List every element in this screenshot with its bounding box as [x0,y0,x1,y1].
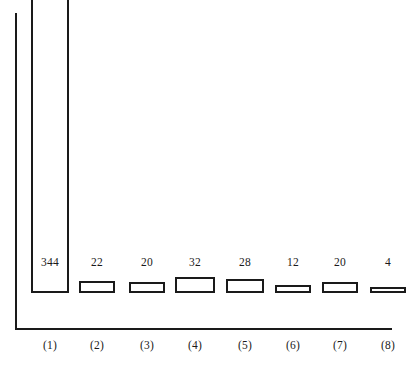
bar-3 [129,282,165,293]
category-label-2: (2) [72,336,122,354]
category-label-5: (5) [220,336,270,354]
value-label-4: 32 [170,254,220,270]
value-label-8: 4 [363,254,413,270]
bar-5 [226,279,264,293]
bar-chart-figure: 3442220322812204 (1)(2)(3)(4)(5)(6)(7)(8… [0,0,416,367]
value-label-6: 12 [268,254,318,270]
category-label-7: (7) [315,336,365,354]
bar-2 [79,281,115,293]
value-label-5: 28 [220,254,270,270]
bar-8 [370,287,406,293]
bar-4 [175,277,215,293]
value-label-3: 20 [122,254,172,270]
bar-1 [31,0,69,293]
value-label-1: 344 [25,254,75,270]
bar-6 [275,285,311,293]
category-label-3: (3) [122,336,172,354]
category-label-6: (6) [268,336,318,354]
bar-7 [322,282,358,293]
category-label-4: (4) [170,336,220,354]
category-label-8: (8) [363,336,413,354]
value-label-7: 20 [315,254,365,270]
value-label-2: 22 [72,254,122,270]
plot-area [0,0,416,330]
category-label-1: (1) [25,336,75,354]
